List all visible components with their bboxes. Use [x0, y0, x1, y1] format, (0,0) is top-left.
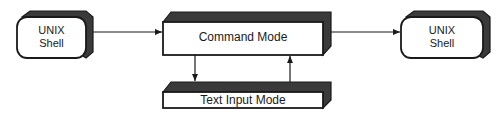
right-shell-label-line1: UNIX	[401, 24, 483, 37]
right-shell-label-line2: Shell	[401, 37, 483, 50]
left-shell-label: UNIX Shell	[17, 24, 86, 50]
left-shell-label-line1: UNIX	[17, 24, 86, 37]
left-shell-label-line2: Shell	[17, 37, 86, 50]
command-mode-label: Command Mode	[163, 31, 323, 44]
right-shell-label: UNIX Shell	[401, 24, 483, 50]
text-input-mode-label: Text Input Mode	[163, 94, 323, 107]
